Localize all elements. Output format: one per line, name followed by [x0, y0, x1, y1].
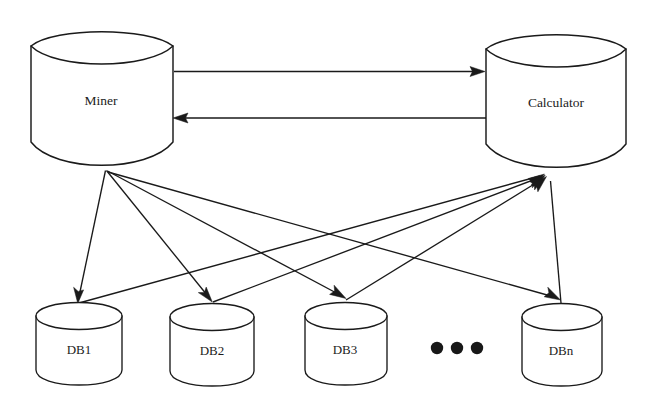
edge-miner-to-db2 [107, 171, 213, 303]
calculator-label: Calculator [528, 95, 585, 110]
node-db3[interactable]: DB3 [305, 303, 387, 386]
diagram-canvas: Miner Calculator DB1 DB2 DB3 [0, 0, 649, 412]
node-miner[interactable]: Miner [31, 32, 173, 166]
edge-calculator-to-miner [173, 113, 486, 123]
ellipsis-dot-icon-1 [431, 342, 443, 354]
db1-label: DB1 [67, 342, 92, 357]
ellipsis-dot-icon-2 [451, 342, 463, 354]
dbn-label: DBn [549, 343, 574, 358]
edge-miner-to-db3 [108, 171, 347, 299]
db2-label: DB2 [200, 343, 225, 358]
arrowhead-icon-to-calculator [470, 67, 485, 77]
edge-line-miner-db2 [107, 171, 210, 298]
arrowhead-icon-db2 [198, 287, 212, 302]
edge-miner-to-calculator [174, 67, 485, 77]
arrowhead-icon-db1 [74, 287, 84, 303]
edge-line-dbn-calculator [551, 181, 562, 303]
edge-db3-to-calculator [346, 177, 547, 301]
arrowhead-icon-dbn [544, 287, 560, 300]
architecture-diagram: Miner Calculator DB1 DB2 DB3 [0, 0, 649, 412]
edge-db2-to-calculator [213, 175, 545, 302]
miner-label: Miner [85, 93, 118, 108]
arrowhead-icon-to-miner [173, 113, 188, 123]
edge-miner-to-dbn [108, 172, 561, 300]
node-db2[interactable]: DB2 [170, 304, 254, 387]
arrowhead-icon-db3 [330, 285, 346, 298]
edge-dbn-to-calculator [551, 181, 562, 303]
node-dbn[interactable]: DBn [522, 304, 602, 387]
ellipsis-more-databases [431, 342, 483, 354]
edge-line-db2-calculator [213, 177, 541, 302]
edge-line-miner-db1 [79, 171, 106, 300]
edge-line-db1-calculator [79, 176, 540, 303]
ellipsis-dot-icon-3 [471, 342, 483, 354]
edge-line-miner-dbn [108, 172, 556, 298]
node-db1[interactable]: DB1 [36, 303, 122, 386]
edge-miner-to-db1 [74, 171, 106, 304]
db3-label: DB3 [333, 342, 358, 357]
edge-line-miner-db3 [108, 171, 343, 296]
node-calculator[interactable]: Calculator [486, 35, 626, 168]
